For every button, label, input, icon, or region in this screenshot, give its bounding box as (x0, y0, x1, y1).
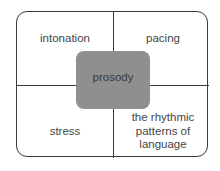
center-concept-box: prosody (76, 51, 150, 109)
center-concept-label: prosody (93, 71, 134, 83)
quadrant-bottom-right-label: the rhythmic patterns of language (118, 111, 208, 152)
bottom-right-line-1: the rhythmic (118, 111, 208, 125)
quadrant-top-right-label: pacing (128, 32, 198, 46)
quadrant-bottom-left-label: stress (30, 125, 100, 139)
bottom-right-line-2: patterns of (118, 125, 208, 139)
quadrant-top-left-label: intonation (30, 32, 100, 46)
bottom-right-line-3: language (118, 138, 208, 152)
